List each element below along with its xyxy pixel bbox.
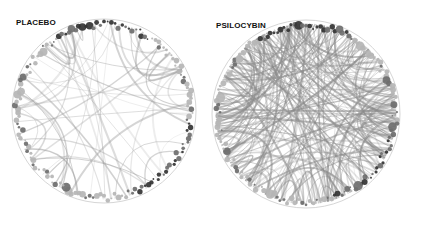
network-node xyxy=(354,187,358,191)
network-node xyxy=(233,165,238,170)
network-node xyxy=(308,199,312,203)
network-node xyxy=(333,194,336,197)
network-node xyxy=(174,65,176,67)
network-node xyxy=(162,46,165,49)
network-node xyxy=(94,20,99,25)
network-node xyxy=(131,192,134,195)
network-node xyxy=(152,178,154,180)
network-node xyxy=(258,36,263,41)
network-node xyxy=(380,152,383,155)
network-node xyxy=(14,118,19,123)
network-node xyxy=(137,189,142,194)
network-node xyxy=(391,132,396,137)
network-node xyxy=(110,198,112,200)
network-node xyxy=(114,22,117,25)
network-node xyxy=(305,203,308,206)
network-node xyxy=(266,35,270,39)
network-node xyxy=(157,172,161,176)
network-node xyxy=(179,64,184,69)
network-node xyxy=(165,166,169,170)
network-node xyxy=(127,189,130,192)
network-node xyxy=(325,27,331,33)
network-node xyxy=(315,25,318,28)
network-node xyxy=(33,166,38,171)
network-node xyxy=(216,93,225,102)
network-node xyxy=(59,182,62,185)
network-node xyxy=(233,62,238,67)
network-node xyxy=(94,193,100,199)
network-node xyxy=(28,71,31,74)
network-node xyxy=(344,191,346,193)
network-node xyxy=(18,126,21,129)
network-node xyxy=(32,163,35,166)
network-node xyxy=(25,73,28,76)
network-node xyxy=(285,201,289,205)
network-node xyxy=(217,88,219,90)
network-node xyxy=(286,28,290,32)
network-node xyxy=(29,63,31,65)
network-node xyxy=(391,108,393,110)
network-node xyxy=(345,30,349,34)
network-node xyxy=(225,79,228,82)
network-node xyxy=(88,194,92,198)
network-node xyxy=(182,143,184,145)
network-node xyxy=(388,147,392,151)
network-node xyxy=(146,182,151,187)
network-node xyxy=(30,156,32,158)
network-node xyxy=(186,104,189,107)
network-node xyxy=(396,111,398,113)
network-node xyxy=(174,58,180,64)
network-node xyxy=(124,25,127,28)
network-node xyxy=(24,142,28,146)
network-node xyxy=(222,148,224,150)
network-node xyxy=(186,99,192,105)
network-node xyxy=(375,166,379,170)
network-node xyxy=(216,115,219,118)
network-node xyxy=(24,139,26,141)
network-node xyxy=(300,201,304,205)
network-node xyxy=(385,150,388,153)
network-node xyxy=(282,26,285,29)
network-node xyxy=(363,50,366,53)
network-node xyxy=(33,61,38,66)
network-node xyxy=(370,177,372,179)
network-node xyxy=(307,24,312,29)
network-node xyxy=(221,80,227,86)
network-node xyxy=(375,170,378,173)
network-node xyxy=(378,59,383,64)
network-node xyxy=(372,56,375,59)
network-node xyxy=(177,69,182,74)
psilocybin-network xyxy=(212,20,400,208)
network-node xyxy=(170,54,172,56)
network-node xyxy=(129,28,134,33)
network-node xyxy=(62,184,65,187)
network-node xyxy=(144,184,147,187)
network-node xyxy=(189,106,194,111)
network-node xyxy=(26,65,30,69)
network-node xyxy=(344,186,350,192)
network-node xyxy=(151,37,153,39)
network-node xyxy=(218,92,221,95)
network-node xyxy=(59,32,64,37)
network-node xyxy=(53,182,58,187)
network-node xyxy=(64,33,67,36)
network-node xyxy=(115,26,120,31)
network-node xyxy=(289,196,295,202)
network-node xyxy=(165,49,168,52)
network-node xyxy=(156,39,161,44)
network-node xyxy=(184,81,189,86)
network-node xyxy=(147,38,149,40)
network-node xyxy=(157,178,160,181)
network-node xyxy=(42,45,44,47)
network-node xyxy=(42,168,45,171)
network-node xyxy=(53,41,55,43)
network-node xyxy=(379,155,382,158)
network-node xyxy=(45,174,50,179)
network-node xyxy=(38,168,40,170)
network-node xyxy=(224,157,230,163)
network-node xyxy=(121,23,125,27)
network-node xyxy=(164,170,168,174)
network-node xyxy=(74,28,79,33)
network-node xyxy=(300,23,305,28)
network-node xyxy=(173,163,176,166)
